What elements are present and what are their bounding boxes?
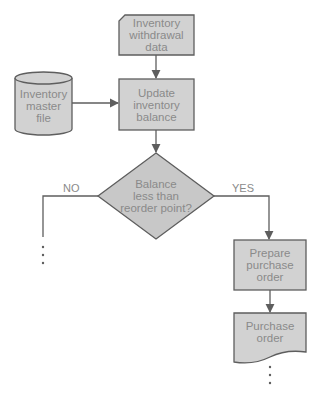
edge-label-no: NO	[63, 182, 80, 194]
edge-label-yes: YES	[232, 182, 254, 194]
edge-no-branch	[43, 196, 98, 237]
edge-yes-branch	[214, 196, 269, 239]
continuation-dots-yes	[269, 366, 271, 384]
label-update-balance: Update inventory balance	[119, 79, 194, 130]
label-prepare-po: Prepare purchase order	[234, 240, 306, 290]
label-purchase-order: Purchase order	[234, 315, 306, 349]
label-withdrawal-data: Inventory withdrawal data	[119, 15, 194, 55]
label-master-file: Inventory master file	[15, 84, 72, 128]
continuation-dots-no	[42, 246, 44, 264]
label-decision: Balance less than reorder point?	[110, 174, 202, 218]
